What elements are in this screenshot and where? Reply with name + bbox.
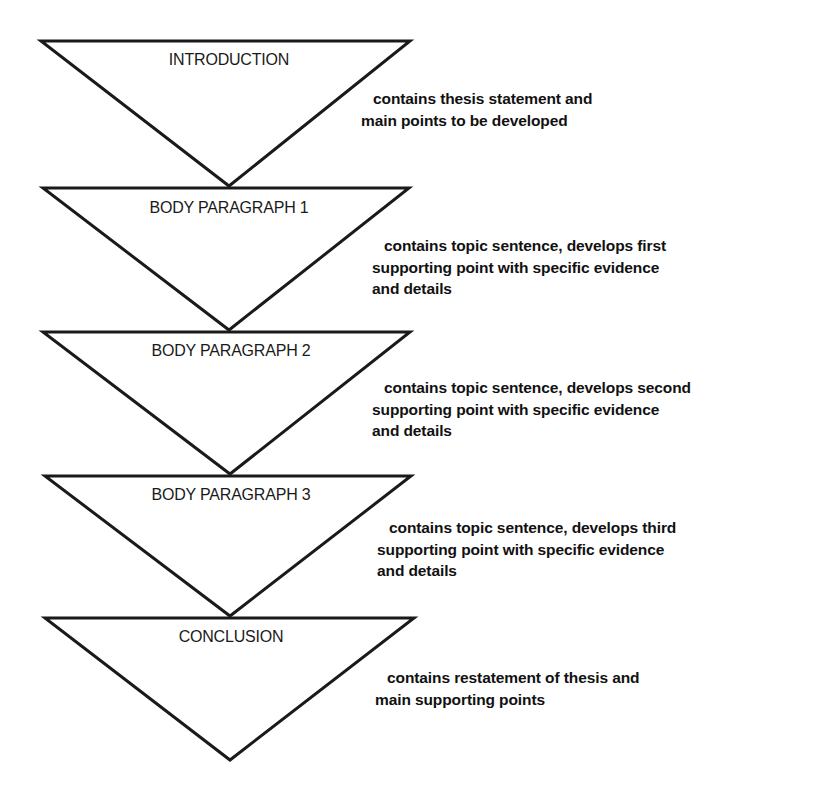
description-line: contains restatement of thesis and — [375, 667, 639, 689]
description-line: contains topic sentence, develops first — [372, 235, 666, 257]
section-label-introduction: INTRODUCTION — [44, 51, 414, 69]
section-description-body-paragraph-2: contains topic sentence, develops second… — [372, 377, 691, 442]
description-line: main points to be developed — [361, 110, 592, 132]
section-label-conclusion: CONCLUSION — [46, 628, 416, 646]
section-description-body-paragraph-3: contains topic sentence, develops third … — [377, 517, 676, 582]
description-line: contains thesis statement and — [361, 88, 592, 110]
section-label-body-paragraph-1: BODY PARAGRAPH 1 — [44, 199, 414, 217]
section-label-body-paragraph-2: BODY PARAGRAPH 2 — [46, 342, 416, 360]
section-description-conclusion: contains restatement of thesis and main … — [375, 667, 639, 710]
description-line: main supporting points — [375, 689, 639, 711]
section-description-introduction: contains thesis statement and main point… — [361, 88, 592, 131]
description-line: supporting point with specific evidence — [372, 257, 666, 279]
description-line: contains topic sentence, develops third — [377, 517, 676, 539]
section-label-body-paragraph-3: BODY PARAGRAPH 3 — [46, 486, 416, 504]
description-line: and details — [377, 560, 676, 582]
description-line: supporting point with specific evidence — [377, 539, 676, 561]
description-line: and details — [372, 278, 666, 300]
description-line: and details — [372, 420, 691, 442]
section-description-body-paragraph-1: contains topic sentence, develops first … — [372, 235, 666, 300]
description-line: contains topic sentence, develops second — [372, 377, 691, 399]
description-line: supporting point with specific evidence — [372, 399, 691, 421]
